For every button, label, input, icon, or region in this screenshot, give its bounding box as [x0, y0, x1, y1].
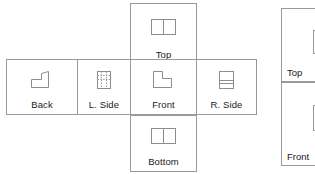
left-side-view-icon-area: [78, 60, 130, 99]
rect-outline-icon: [313, 30, 315, 54]
side-panel-cell-front[interactable]: Front: [281, 82, 315, 166]
rect-hidden-lines-icon: [97, 71, 111, 89]
rect-split-vertical-icon: [151, 128, 176, 144]
right-side-view-icon-area: [197, 60, 256, 99]
view-label-bottom: Bottom: [131, 156, 196, 171]
side-panel-label-top: Top: [287, 67, 302, 78]
view-label-right-side: R. Side: [197, 99, 256, 114]
rect-split-horizontal-icon: [219, 71, 234, 89]
view-cell-right-side[interactable]: R. Side: [196, 59, 257, 115]
view-cell-top[interactable]: Top: [130, 3, 197, 65]
view-label-back: Back: [7, 99, 77, 114]
bottom-view-icon-area: [131, 116, 196, 156]
view-label-left-side: L. Side: [78, 99, 130, 114]
side-panel-label-front: Front: [287, 151, 309, 162]
view-label-front: Front: [131, 99, 196, 114]
top-view-icon-area: [131, 4, 196, 49]
view-cell-front[interactable]: Front: [130, 59, 197, 115]
front-view-icon-area: [131, 60, 196, 99]
rect-split-vertical-icon: [151, 19, 176, 35]
stepped-profile-right-icon: [31, 71, 53, 88]
stepped-profile-notch-icon: [153, 71, 175, 88]
back-view-icon-area: [7, 60, 77, 99]
orthographic-view-layout-diagram: Top Back L. Side: [0, 0, 315, 174]
view-cell-left-side[interactable]: L. Side: [77, 59, 131, 115]
view-cell-bottom[interactable]: Bottom: [130, 115, 197, 172]
view-cell-back[interactable]: Back: [6, 59, 78, 115]
rect-outline-icon: [313, 105, 315, 131]
side-panel-cell-top[interactable]: Top: [281, 8, 315, 82]
